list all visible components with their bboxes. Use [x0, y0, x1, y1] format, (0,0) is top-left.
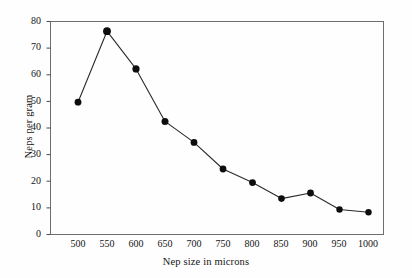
data-point — [220, 166, 227, 173]
data-point-markers — [75, 27, 372, 215]
x-axis-title: Nep size in microns — [0, 256, 412, 267]
data-point — [75, 99, 82, 106]
data-point — [249, 179, 256, 186]
y-axis-title: Neps per gram — [23, 47, 34, 207]
data-point — [132, 65, 139, 72]
data-point — [162, 118, 169, 125]
data-point — [103, 27, 111, 35]
line-chart-plot — [0, 0, 412, 278]
data-point — [278, 195, 285, 202]
chart-figure: 0 10 20 30 40 50 60 70 80 500 550 600 65… — [0, 0, 412, 278]
y-tick-label-80: 80 — [11, 15, 41, 26]
data-series-line — [78, 31, 369, 212]
plot-frame — [51, 22, 384, 235]
data-point — [336, 206, 342, 212]
data-point — [307, 190, 314, 197]
data-point — [191, 139, 198, 146]
y-axis-ticks — [47, 22, 51, 235]
x-tick-label-1000: 1000 — [348, 238, 388, 249]
data-point — [365, 209, 371, 215]
y-tick-label-0: 0 — [11, 228, 41, 239]
